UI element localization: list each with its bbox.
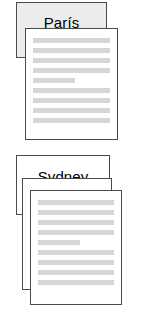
text-line	[38, 250, 114, 255]
text-line	[38, 210, 114, 215]
document-cluster-sydney: Sydney	[0, 0, 142, 315]
text-line	[38, 260, 114, 265]
text-line	[38, 270, 114, 275]
illustration-canvas: París Sydney	[0, 0, 142, 315]
text-line	[38, 220, 114, 225]
text-line	[38, 230, 114, 235]
text-line	[38, 240, 80, 245]
document-page-sydney-front[interactable]	[30, 190, 122, 305]
text-line	[38, 200, 114, 205]
text-line	[38, 280, 114, 285]
document-text-lines-sydney	[38, 200, 114, 285]
